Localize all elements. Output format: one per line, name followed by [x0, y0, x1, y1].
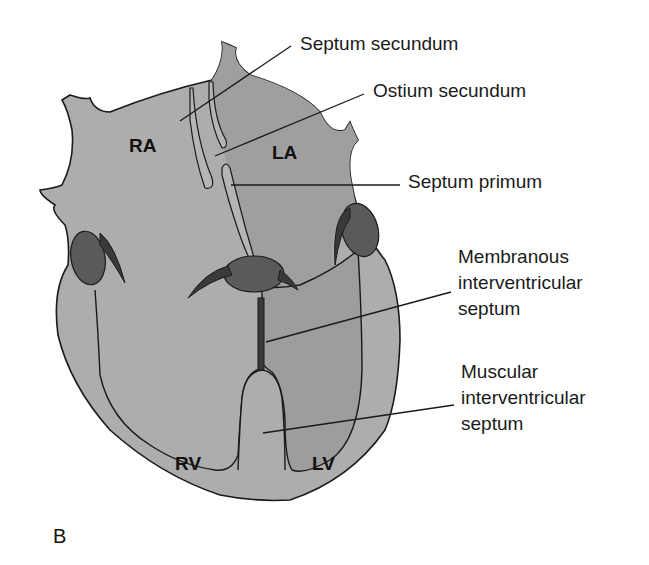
panel-label: B [53, 525, 66, 548]
chamber-label-lv: LV [312, 453, 335, 475]
membranous-septum-shape [258, 298, 264, 370]
label-line: Septum secundum [300, 33, 458, 54]
label-membranous-ivs: Membranous interventricular septum [458, 244, 583, 322]
label-line: Ostium secundum [373, 80, 526, 101]
central-valve [224, 256, 284, 292]
label-line: septum [458, 296, 583, 322]
muscular-septum-shape [238, 370, 285, 470]
label-line: interventricular [458, 270, 583, 296]
label-septum-primum: Septum primum [408, 171, 542, 193]
label-muscular-ivs: Muscular interventricular septum [461, 359, 586, 437]
label-line: Membranous [458, 244, 583, 270]
chamber-label-ra: RA [129, 135, 156, 157]
label-line: interventricular [461, 385, 586, 411]
label-line: Muscular [461, 359, 586, 385]
chamber-label-la: LA [272, 142, 297, 164]
chamber-label-rv: RV [175, 453, 201, 475]
label-septum-secundum: Septum secundum [300, 33, 458, 55]
label-ostium-secundum: Ostium secundum [373, 80, 526, 102]
label-line: Septum primum [408, 171, 542, 192]
label-line: septum [461, 411, 586, 437]
